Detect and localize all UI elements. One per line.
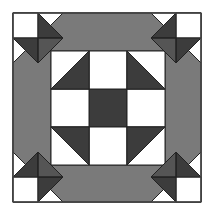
edge-cell-top — [89, 51, 127, 89]
edge-cell-right — [127, 89, 165, 127]
quilt-block — [0, 0, 213, 217]
edge-cell-left — [51, 89, 89, 127]
edge-cell-bottom — [89, 127, 127, 165]
center-square — [89, 89, 127, 127]
